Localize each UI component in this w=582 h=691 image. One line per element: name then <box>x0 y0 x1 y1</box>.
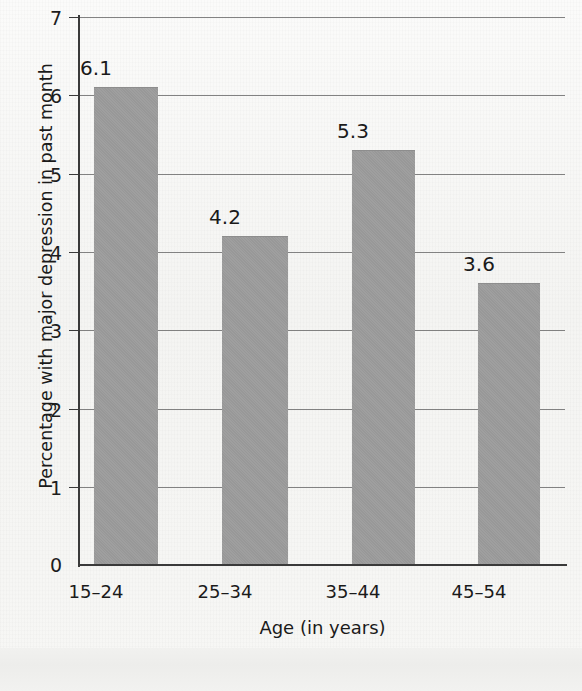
x-tick-label-45-54: 45–54 <box>447 581 511 602</box>
x-tick-label-35-44: 35–44 <box>321 581 385 602</box>
y-tick-mark-6 <box>69 95 78 96</box>
x-axis-title: Age (in years) <box>78 617 567 638</box>
bar-chart-figure: 7 6 5 4 3 2 1 0 6.1 4.2 5.3 3.6 15–24 25… <box>0 0 582 691</box>
y-tick-mark-7 <box>69 17 78 18</box>
plot-area <box>78 17 565 565</box>
bar-value-label-25-34: 4.2 <box>192 207 258 227</box>
bar-value-label-35-44: 5.3 <box>321 121 385 141</box>
y-tick-mark-1 <box>69 487 78 488</box>
bar-25-34 <box>222 236 288 566</box>
x-axis-line <box>78 564 567 566</box>
bar-15-24 <box>94 87 158 566</box>
y-tick-mark-4 <box>69 252 78 253</box>
y-axis-title: Percentage with major depression in past… <box>36 0 56 556</box>
page-bottom-band <box>0 648 582 691</box>
y-tick-mark-5 <box>69 174 78 175</box>
y-tick-mark-2 <box>69 409 78 410</box>
x-tick-label-25-34: 25–34 <box>192 581 258 602</box>
gridline-7 <box>78 17 565 18</box>
x-tick-label-15-24: 15–24 <box>64 581 128 602</box>
bar-45-54 <box>478 283 540 566</box>
bar-value-label-45-54: 3.6 <box>447 254 511 274</box>
bar-35-44 <box>352 150 415 566</box>
y-tick-label-0: 0 <box>36 556 62 575</box>
y-axis-line <box>78 15 80 567</box>
y-tick-mark-3 <box>69 330 78 331</box>
bar-value-label-15-24: 6.1 <box>64 58 128 78</box>
